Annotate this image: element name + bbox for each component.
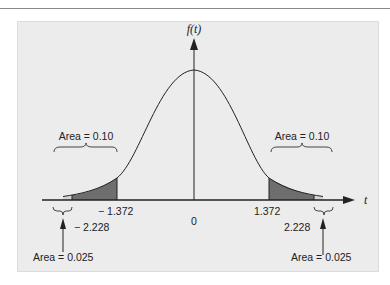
x-axis-arrow-icon <box>343 196 355 204</box>
x-axis-label: t <box>364 193 368 207</box>
t-distribution-diagram: f(t) t 0 − 1.372 − 2.228 1.372 2.228 Are… <box>0 0 390 285</box>
right-area-010-label: Area = 0.10 <box>275 130 330 142</box>
y-axis-arrow-icon <box>190 38 198 50</box>
tick-neg-2228: − 2.228 <box>74 221 109 233</box>
left-brace-0025 <box>53 207 72 215</box>
right-brace-0025 <box>314 207 333 215</box>
left-brace-010 <box>54 143 117 152</box>
right-area-0025-label: Area = 0.025 <box>291 251 352 263</box>
left-area-010-label: Area = 0.10 <box>59 130 114 142</box>
left-area-0025-label: Area = 0.025 <box>33 251 94 263</box>
right-pointer-arrow-icon <box>320 218 326 229</box>
y-axis-label: f(t) <box>187 22 202 36</box>
tick-zero: 0 <box>191 215 197 227</box>
right-brace-010 <box>271 143 332 152</box>
tick-pos-1372: 1.372 <box>254 205 280 217</box>
tick-pos-2228: 2.228 <box>284 221 310 233</box>
left-pointer-arrow-icon <box>60 218 66 229</box>
tick-neg-1372: − 1.372 <box>98 205 133 217</box>
